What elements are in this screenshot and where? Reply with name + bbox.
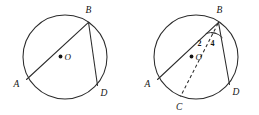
geometry-figure-canvas: O B A D O B A C D 2 4 xyxy=(0,0,259,115)
right-point-label-d: D xyxy=(232,87,240,97)
left-center-dot xyxy=(59,55,63,59)
right-point-label-c: C xyxy=(176,102,183,112)
right-chord-ba xyxy=(158,22,219,79)
left-point-label-b: B xyxy=(86,5,92,15)
left-center-label: O xyxy=(65,52,72,62)
right-angle-label-4: 4 xyxy=(211,39,215,48)
right-circle-group: O B A C D 2 4 xyxy=(144,5,240,112)
left-chord-ba xyxy=(27,22,89,79)
right-center-dot xyxy=(190,55,194,59)
right-angle-label-2: 2 xyxy=(198,39,202,48)
right-chord-bd xyxy=(219,22,230,84)
left-point-label-d: D xyxy=(100,88,108,98)
left-circle-group: O B A D xyxy=(13,5,108,99)
right-center-label: O xyxy=(196,52,203,62)
left-chord-bd xyxy=(89,22,98,85)
right-point-label-a: A xyxy=(144,79,151,89)
left-point-label-a: A xyxy=(13,79,20,89)
right-point-label-b: B xyxy=(217,5,223,15)
